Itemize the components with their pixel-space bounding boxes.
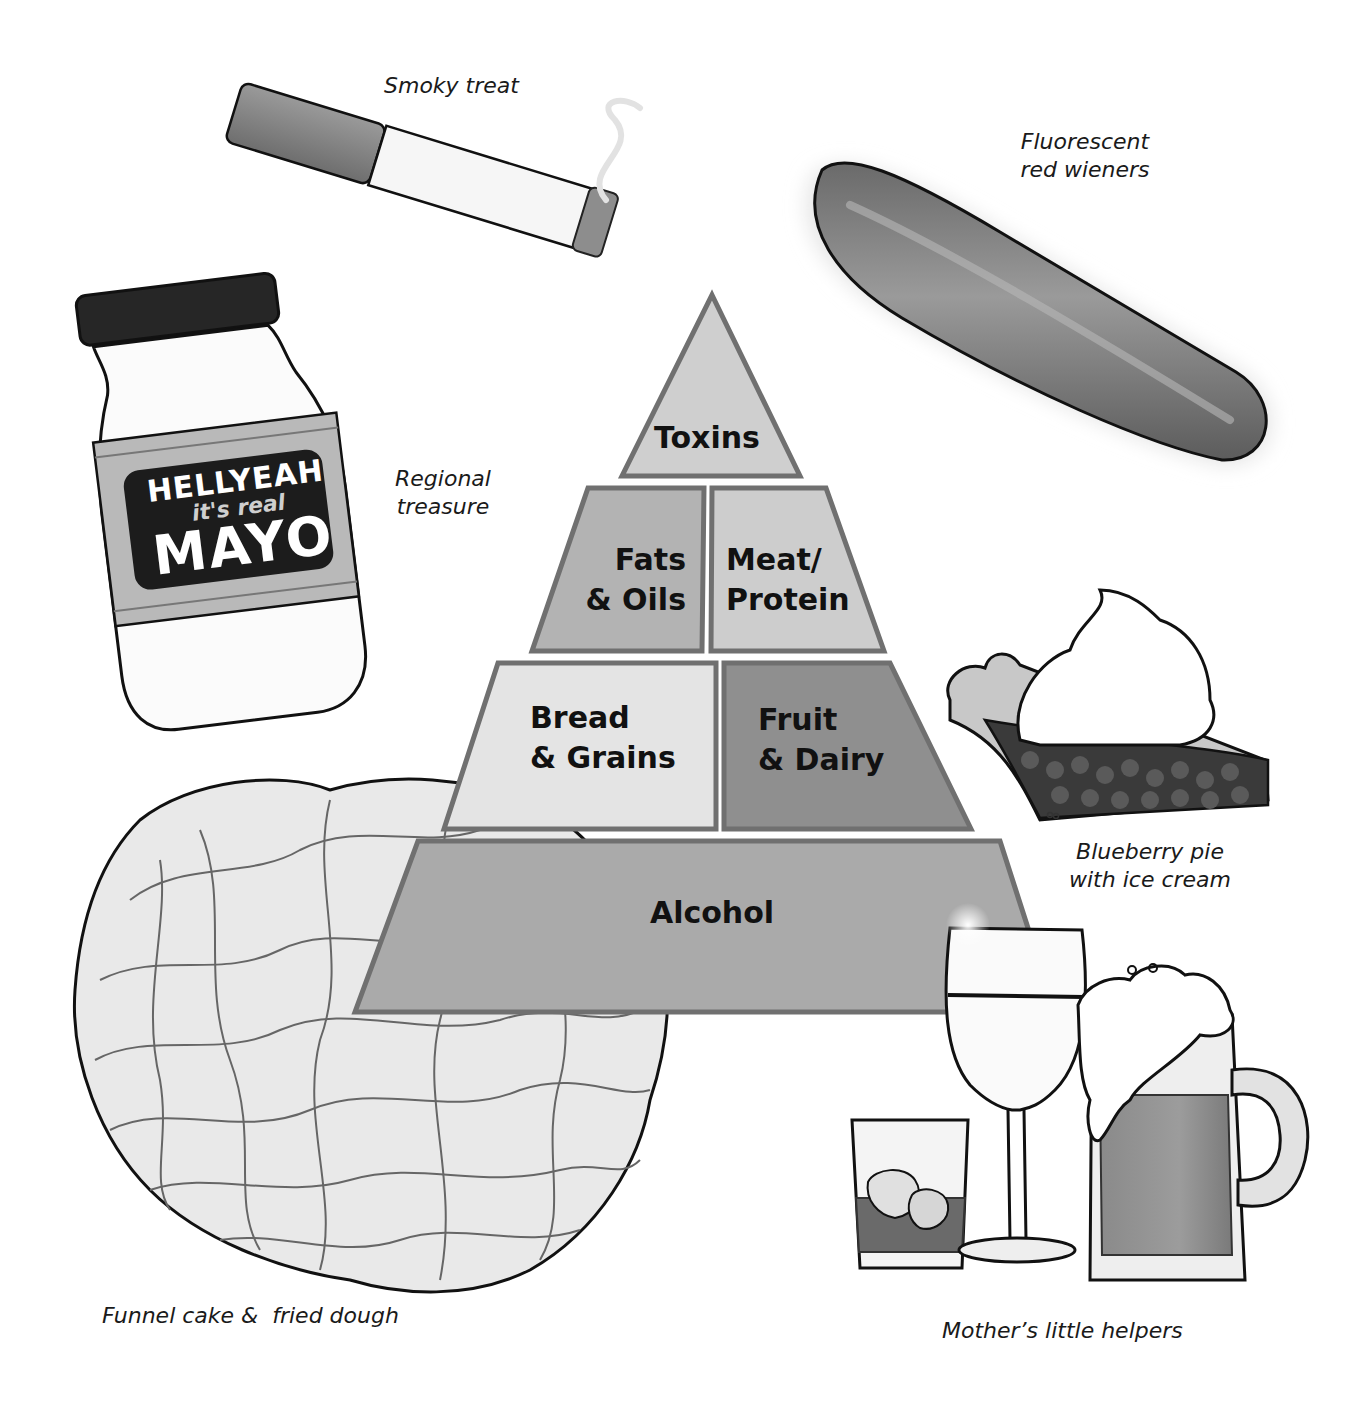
label-toxins: Toxins bbox=[632, 418, 782, 458]
smoke-icon bbox=[599, 101, 640, 200]
caption-smoky-treat: Smoky treat bbox=[384, 72, 519, 100]
label-fats-oils: Fats & Oils bbox=[560, 540, 686, 620]
label-fats-line1: Fats bbox=[560, 540, 686, 580]
caption-blueberry-pie: Blueberry pie with ice cream bbox=[1060, 838, 1240, 894]
label-bread-grains: Bread & Grains bbox=[530, 698, 710, 778]
label-alcohol: Alcohol bbox=[612, 893, 812, 933]
caption-mayo-line2: treasure bbox=[378, 493, 508, 521]
blueberry-pie-icon bbox=[948, 590, 1268, 820]
caption-pie-line1: Blueberry pie bbox=[1060, 838, 1240, 866]
illustration-canvas: HELLYEAH it's real MAYO Toxins Fats & Oi… bbox=[0, 0, 1368, 1425]
label-fruit-dairy: Fruit & Dairy bbox=[758, 700, 938, 780]
label-meat-line1: Meat/ bbox=[726, 540, 876, 580]
caption-wiener-line2: red wieners bbox=[1000, 156, 1170, 184]
cigarette-icon bbox=[224, 80, 619, 258]
label-bread-line1: Bread bbox=[530, 698, 710, 738]
label-meat-protein: Meat/ Protein bbox=[726, 540, 876, 620]
caption-mothers-little-helpers: Mother’s little helpers bbox=[942, 1317, 1183, 1345]
label-meat-line2: Protein bbox=[726, 580, 876, 620]
caption-mayo-line1: Regional bbox=[378, 465, 508, 493]
caption-pie-line2: with ice cream bbox=[1060, 866, 1240, 894]
label-fats-line2: & Oils bbox=[560, 580, 686, 620]
caption-wiener-line1: Fluorescent bbox=[1000, 128, 1170, 156]
mayo-jar-label: HELLYEAH it's real MAYO bbox=[134, 453, 346, 585]
caption-regional-treasure: Regional treasure bbox=[378, 465, 508, 521]
label-fruit-line2: & Dairy bbox=[758, 740, 938, 780]
label-fruit-line1: Fruit bbox=[758, 700, 938, 740]
caption-fluorescent-wieners: Fluorescent red wieners bbox=[1000, 128, 1170, 184]
caption-funnel-cake: Funnel cake & fried dough bbox=[102, 1302, 399, 1330]
label-bread-line2: & Grains bbox=[530, 738, 710, 778]
wiener-icon bbox=[806, 163, 1272, 465]
